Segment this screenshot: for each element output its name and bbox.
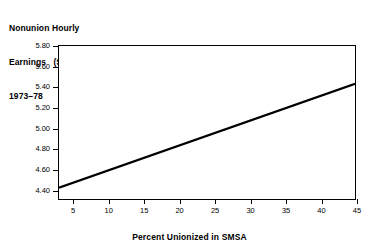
- y-axis-tick-label: 4.80: [35, 145, 50, 153]
- y-axis-tick-label: 5.80: [35, 42, 50, 50]
- y-axis-tick: [53, 129, 58, 130]
- x-axis-tick-label: 25: [211, 207, 219, 215]
- x-axis-tick: [215, 199, 216, 204]
- y-axis-tick: [53, 87, 58, 88]
- y-axis-tick: [53, 149, 58, 150]
- chart-figure: Nonunion Hourly Earnings ($) 1973–78 4.4…: [0, 0, 379, 249]
- x-axis-tick-label: 5: [71, 207, 75, 215]
- x-axis-tick: [322, 199, 323, 204]
- x-axis-tick: [180, 199, 181, 204]
- y-axis-tick-label: 5.20: [35, 104, 50, 112]
- x-axis-tick: [73, 199, 74, 204]
- x-axis-tick-label: 10: [104, 207, 112, 215]
- series-line: [59, 84, 355, 188]
- y-axis-tick: [53, 46, 58, 47]
- x-axis-title: Percent Unionized in SMSA: [0, 232, 379, 242]
- x-axis-tick-label: 30: [246, 207, 254, 215]
- y-axis-tick-label: 4.60: [35, 166, 50, 174]
- plot-area: 4.404.604.805.005.205.405.605.8051015202…: [58, 45, 356, 200]
- x-axis-tick: [144, 199, 145, 204]
- y-axis-tick-label: 5.60: [35, 63, 50, 71]
- x-axis-tick-label: 20: [175, 207, 183, 215]
- x-axis-tick-label: 15: [140, 207, 148, 215]
- y-axis-tick-label: 5.00: [35, 125, 50, 133]
- chart-title-line-1: Nonunion Hourly: [9, 23, 79, 34]
- x-axis-tick: [357, 199, 358, 204]
- x-axis-tick-label: 45: [353, 207, 361, 215]
- x-axis-tick-label: 35: [282, 207, 290, 215]
- y-axis-tick-label: 4.40: [35, 187, 50, 195]
- y-axis-tick: [53, 67, 58, 68]
- x-axis-tick: [251, 199, 252, 204]
- y-axis-tick: [53, 170, 58, 171]
- y-axis-tick-label: 5.40: [35, 83, 50, 91]
- y-axis-tick: [53, 108, 58, 109]
- y-axis-tick: [53, 191, 58, 192]
- x-axis-tick-label: 40: [317, 207, 325, 215]
- x-axis-tick: [286, 199, 287, 204]
- plot-svg: [59, 46, 355, 199]
- x-axis-tick: [109, 199, 110, 204]
